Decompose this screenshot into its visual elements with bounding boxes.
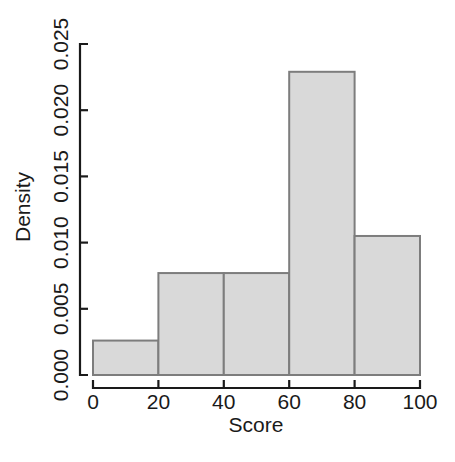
histogram-bar	[355, 236, 420, 375]
y-tick-label: 0.020	[49, 84, 72, 137]
x-tick-label: 80	[343, 390, 366, 413]
histogram-bar	[93, 341, 158, 375]
y-tick-label: 0.015	[49, 150, 72, 203]
x-tick-label: 40	[212, 390, 235, 413]
x-axis-title: Score	[229, 413, 284, 436]
y-tick-label: 0.000	[49, 349, 72, 402]
x-tick-label: 20	[147, 390, 170, 413]
y-tick-label: 0.010	[49, 216, 72, 269]
histogram-figure: 0.0000.0050.0100.0150.0200.025 020406080…	[0, 0, 455, 462]
x-tick-label: 100	[402, 390, 437, 413]
histogram-bar	[158, 273, 223, 375]
y-tick-label: 0.005	[49, 283, 72, 336]
y-axis-title: Density	[11, 171, 34, 242]
y-tick-label: 0.025	[49, 18, 72, 71]
x-tick-label: 60	[278, 390, 301, 413]
histogram-bar	[224, 273, 289, 375]
histogram-plot-area: 0.0000.0050.0100.0150.0200.025 020406080…	[0, 0, 455, 462]
x-tick-label: 0	[87, 390, 99, 413]
histogram-bar	[289, 72, 354, 375]
